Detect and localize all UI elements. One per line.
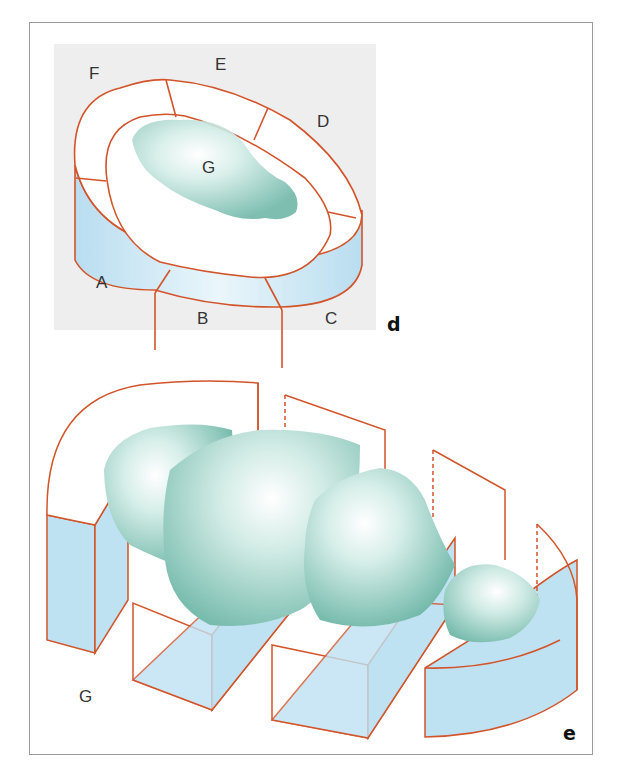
label-d: D <box>317 112 329 132</box>
label-f: F <box>89 64 99 84</box>
label-c: C <box>325 309 337 329</box>
figure-illustration <box>0 0 620 783</box>
label-e: E <box>215 55 226 75</box>
panel-e-tumor <box>104 424 540 642</box>
panel-letter-e: e <box>563 722 576 744</box>
panel-letter-d: d <box>387 313 401 335</box>
label-a: A <box>96 273 107 293</box>
label-b: B <box>197 309 208 329</box>
label-g-d: G <box>202 158 215 178</box>
label-g-e: G <box>79 687 92 707</box>
